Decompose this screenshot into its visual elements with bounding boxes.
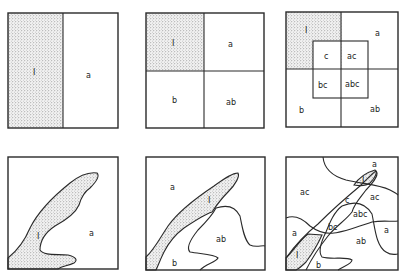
panel-top-2: I a b ab bbox=[146, 13, 264, 128]
panel-bottom-2: a I ab b bbox=[146, 157, 265, 270]
label-ac-left: ac bbox=[300, 188, 309, 197]
control-region bbox=[146, 173, 239, 270]
label-b: b bbox=[172, 259, 177, 268]
label-control: I bbox=[208, 196, 210, 205]
label-a: a bbox=[228, 40, 233, 49]
control-region bbox=[8, 13, 63, 128]
panel-bottom-1: I a bbox=[8, 157, 118, 269]
label-bc: bc bbox=[318, 81, 327, 90]
label-control: I bbox=[33, 68, 35, 77]
label-c: c bbox=[345, 196, 349, 205]
label-a-right: a bbox=[384, 226, 389, 235]
label-a-top: a bbox=[372, 160, 377, 169]
label-control: I bbox=[37, 232, 39, 241]
label-b: b bbox=[172, 96, 177, 105]
label-control-bottom: I bbox=[296, 251, 298, 260]
label-a-left: a bbox=[292, 229, 297, 238]
label-b: b bbox=[299, 106, 304, 115]
label-abc: abc bbox=[353, 210, 367, 219]
label-ab: ab bbox=[356, 237, 366, 246]
label-a: a bbox=[170, 183, 175, 192]
label-control: I bbox=[172, 39, 174, 48]
label-a: a bbox=[86, 71, 91, 80]
control-region bbox=[8, 173, 98, 269]
panel-top-1: I a bbox=[8, 13, 118, 128]
label-abc: abc bbox=[345, 80, 359, 89]
label-ab: ab bbox=[216, 235, 226, 244]
label-ab: ab bbox=[370, 105, 380, 114]
label-ac: ac bbox=[347, 52, 356, 61]
factor-diagram: I a I a b ab I a c ac bc abc b ab I a bbox=[0, 0, 408, 279]
label-a: a bbox=[89, 229, 94, 238]
label-c: c bbox=[324, 52, 328, 61]
panel-bottom-3: a I ac c ac abc a a bc ab I b bbox=[286, 157, 398, 270]
label-b: b bbox=[316, 261, 321, 270]
label-a: a bbox=[375, 29, 380, 38]
label-ab: ab bbox=[226, 98, 236, 107]
label-ac-right: ac bbox=[370, 193, 379, 202]
label-control: I bbox=[305, 26, 307, 35]
label-bc: bc bbox=[328, 223, 337, 232]
panel-top-3: I a c ac bc abc b ab bbox=[286, 12, 398, 127]
control-region bbox=[146, 13, 204, 71]
label-control-top: I bbox=[362, 176, 364, 185]
